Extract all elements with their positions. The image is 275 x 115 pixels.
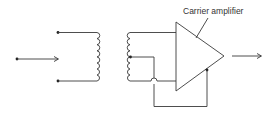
amplifier-triangle-icon — [176, 22, 224, 91]
input-arrow — [16, 57, 59, 62]
secondary-winding — [127, 33, 176, 107]
amplifier-label: Carrier amplifier — [183, 7, 243, 16]
circuit-diagram: Carrier amplifier — [0, 0, 275, 115]
diagram-svg — [0, 0, 275, 115]
output-arrow — [232, 54, 262, 59]
primary-coil-icon — [97, 33, 100, 82]
primary-winding — [57, 31, 100, 82]
label-leader-line — [196, 18, 208, 38]
carrier-amplifier — [176, 22, 224, 91]
